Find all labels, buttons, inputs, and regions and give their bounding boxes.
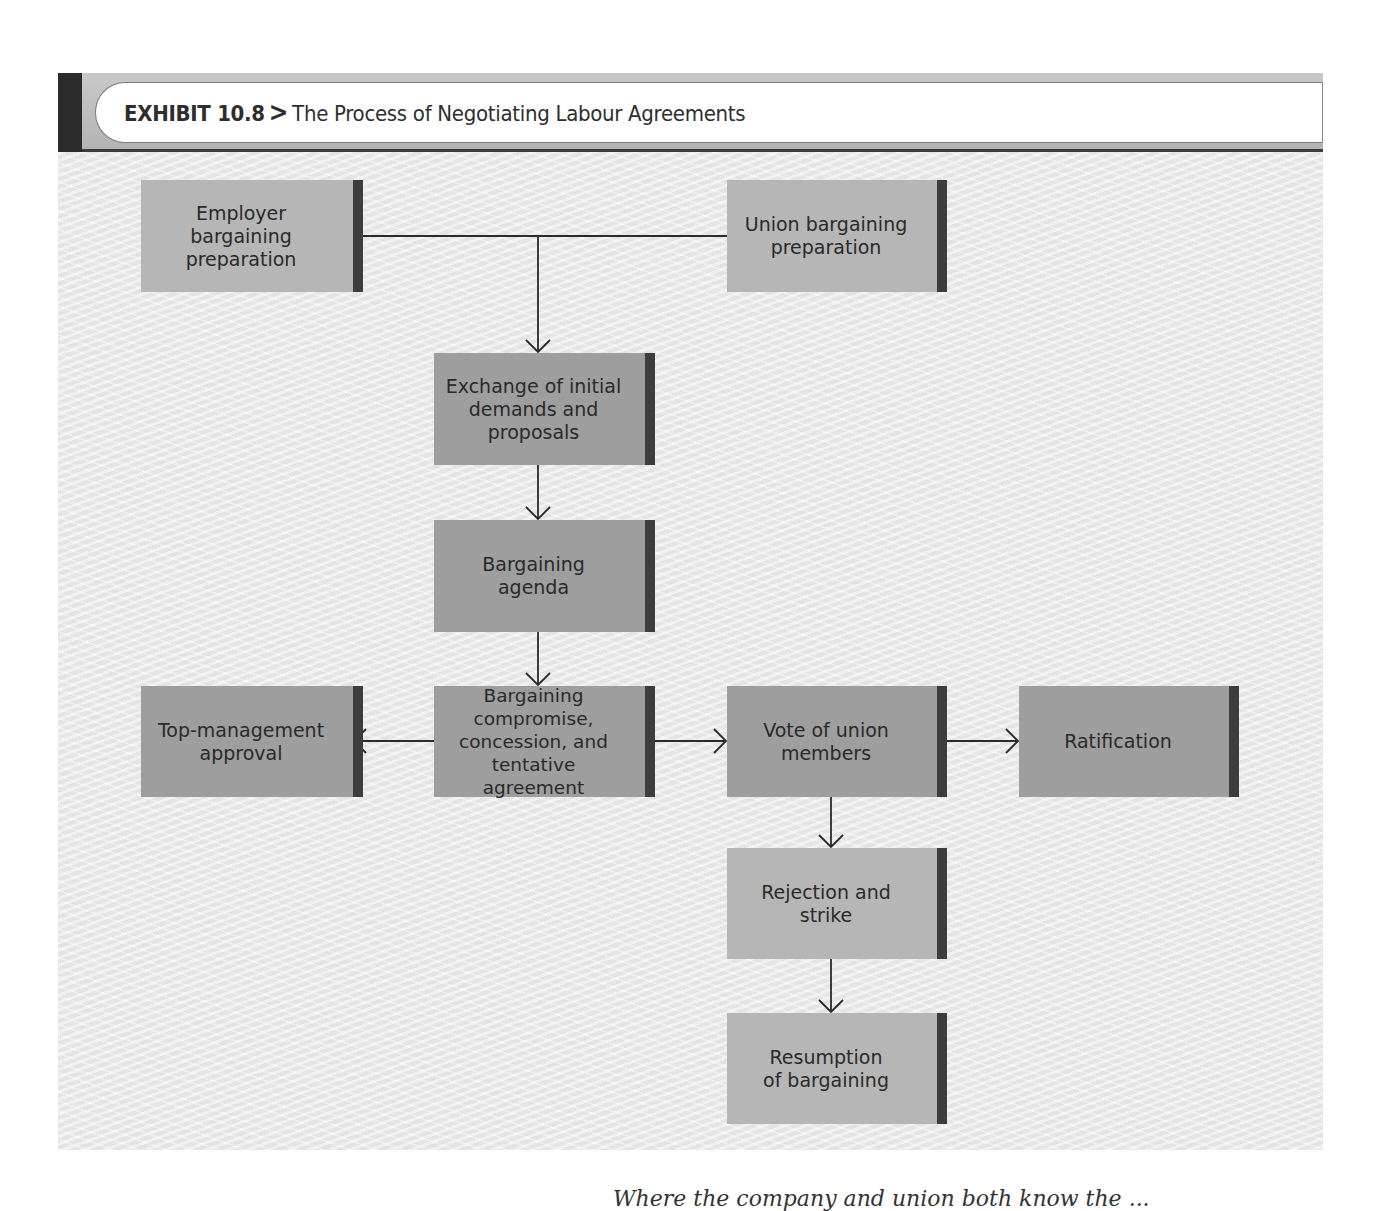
node-label: Bargaining compromise, concession, and t… bbox=[440, 684, 627, 799]
exhibit-header: EXHIBIT 10.8>The Process of Negotiating … bbox=[58, 73, 1323, 152]
node-resumption-bargaining: Resumption of bargaining bbox=[727, 1013, 947, 1124]
node-label: Rejection and strike bbox=[761, 881, 891, 927]
node-vote-union-members: Vote of union members bbox=[727, 686, 947, 797]
node-union-preparation: Union bargaining preparation bbox=[727, 180, 947, 292]
node-label: Resumption of bargaining bbox=[763, 1046, 889, 1092]
node-label: Ratification bbox=[1064, 730, 1172, 753]
node-label: Bargaining agenda bbox=[482, 553, 585, 599]
node-ratification: Ratification bbox=[1019, 686, 1239, 797]
header-title-pill: EXHIBIT 10.8>The Process of Negotiating … bbox=[95, 82, 1323, 143]
node-exchange-demands: Exchange of initial demands and proposal… bbox=[434, 353, 655, 465]
diagram-canvas bbox=[58, 152, 1323, 1150]
node-label: Exchange of initial demands and proposal… bbox=[446, 375, 621, 444]
chevron-right-icon: > bbox=[269, 97, 288, 127]
exhibit-title-text: The Process of Negotiating Labour Agreem… bbox=[292, 101, 745, 126]
node-label: Top-management approval bbox=[158, 719, 324, 765]
node-rejection-strike: Rejection and strike bbox=[727, 848, 947, 959]
node-label: Vote of union members bbox=[763, 719, 889, 765]
exhibit-number: EXHIBIT 10.8 bbox=[124, 101, 265, 126]
node-top-management-approval: Top-management approval bbox=[141, 686, 363, 797]
header-accent-bar bbox=[58, 73, 82, 152]
node-label: Union bargaining preparation bbox=[745, 213, 908, 259]
exhibit-title: EXHIBIT 10.8>The Process of Negotiating … bbox=[124, 83, 745, 142]
node-label: Employer bargaining preparation bbox=[186, 202, 297, 271]
node-bargaining-compromise: Bargaining compromise, concession, and t… bbox=[434, 686, 655, 797]
node-bargaining-agenda: Bargaining agenda bbox=[434, 520, 655, 632]
node-employer-preparation: Employer bargaining preparation bbox=[141, 180, 363, 292]
page-body-text-cropped: Where the company and union both know th… bbox=[613, 1186, 1353, 1211]
